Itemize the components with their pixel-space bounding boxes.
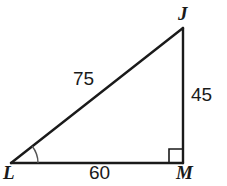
right-angle-mark-icon [169, 149, 183, 163]
vertex-label-j: J [178, 4, 188, 23]
side-label-hypotenuse: 75 [73, 69, 94, 88]
side-label-base: 60 [89, 163, 110, 182]
triangle-figure: J L M 75 45 60 [0, 0, 227, 186]
vertex-label-m: M [176, 163, 193, 182]
vertex-label-l: L [3, 163, 15, 182]
side-hypotenuse-line [11, 28, 183, 163]
angle-arc-icon [32, 146, 38, 163]
side-label-vertical: 45 [191, 85, 212, 104]
